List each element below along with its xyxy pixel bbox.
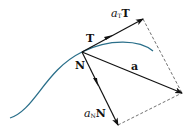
aN-vec: N [96,107,106,120]
dashed-line-top [143,19,182,93]
aT-vec: T [122,7,130,20]
curve [10,42,153,118]
tangential-normal-acceleration-diagram: T N a aTT aNN [0,0,187,131]
label-a: a [131,61,138,72]
label-N: N [75,60,85,71]
label-aT-T: aTT [111,8,130,19]
unit-N-arrowhead [93,78,98,86]
label-aN-N: aNN [84,108,106,119]
label-T: T [86,33,94,44]
dashed-line-bottom [118,93,182,125]
